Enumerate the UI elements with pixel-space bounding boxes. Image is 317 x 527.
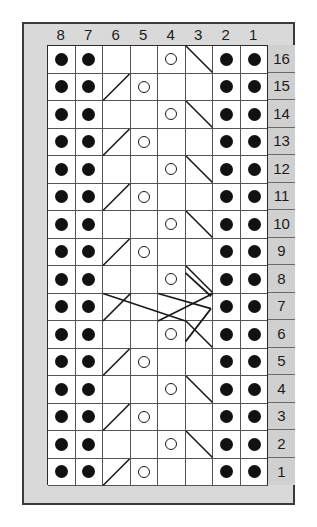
purl-dot-icon: [220, 108, 233, 121]
chart-row-8: [48, 266, 268, 294]
purl-dot-icon: [248, 328, 261, 341]
purl-dot-icon: [248, 273, 261, 286]
purl-dot-icon: [82, 438, 95, 451]
cell-r4-c3: [186, 376, 214, 404]
purl-dot-icon: [55, 465, 68, 478]
decrease-right-diagonal-icon: [103, 74, 130, 101]
cell-r2-c1: [241, 431, 269, 459]
purl-dot-icon: [248, 218, 261, 231]
cell-r9-c8: [48, 239, 76, 267]
cell-r8-c3: [186, 266, 214, 294]
yarn-over-circle-icon: [138, 136, 150, 148]
purl-dot-icon: [220, 80, 233, 93]
chart-row-15: [48, 74, 268, 102]
column-header-5: 5: [130, 24, 158, 44]
column-header-1: 1: [240, 24, 268, 44]
cell-r6-c2: [213, 321, 241, 349]
cell-r14-c8: [48, 101, 76, 129]
purl-dot-icon: [248, 80, 261, 93]
cell-r12-c5: [131, 156, 159, 184]
cell-r6-c6: [103, 321, 131, 349]
purl-dot-icon: [82, 300, 95, 313]
cell-r6-c5: [131, 321, 159, 349]
cell-r12-c6: [103, 156, 131, 184]
cell-r4-c1: [241, 376, 269, 404]
cell-r15-c3: [186, 74, 214, 102]
cell-r5-c7: [76, 349, 104, 377]
cell-r8-c7: [76, 266, 104, 294]
cell-r7-c3: [186, 294, 214, 322]
yarn-over-circle-icon: [165, 218, 177, 230]
purl-dot-icon: [82, 245, 95, 258]
cell-r2-c2: [213, 431, 241, 459]
chart-row-16: [48, 46, 268, 74]
purl-dot-icon: [248, 438, 261, 451]
yarn-over-circle-icon: [165, 438, 177, 450]
cell-r16-c4: [158, 46, 186, 74]
cell-r7-c4: [158, 294, 186, 322]
column-header-7: 7: [75, 24, 103, 44]
purl-dot-icon: [55, 218, 68, 231]
cell-r4-c7: [76, 376, 104, 404]
decrease-right-diagonal-icon: [103, 349, 130, 376]
cell-r16-c1: [241, 46, 269, 74]
purl-dot-icon: [82, 53, 95, 66]
purl-dot-icon: [82, 383, 95, 396]
cell-r13-c4: [158, 129, 186, 157]
cell-r16-c8: [48, 46, 76, 74]
cell-r3-c2: [213, 404, 241, 432]
row-number-8: 8: [268, 265, 295, 293]
purl-dot-icon: [55, 245, 68, 258]
row-number-15: 15: [268, 73, 295, 101]
cell-r2-c5: [131, 431, 159, 459]
cell-r9-c7: [76, 239, 104, 267]
cell-r11-c7: [76, 184, 104, 212]
column-header-6: 6: [102, 24, 130, 44]
cell-r2-c8: [48, 431, 76, 459]
purl-dot-icon: [55, 383, 68, 396]
cell-r12-c3: [186, 156, 214, 184]
decrease-left-diagonal-icon: [186, 431, 213, 458]
purl-dot-icon: [248, 300, 261, 313]
chart-row-7: [48, 294, 268, 322]
cell-r9-c4: [158, 239, 186, 267]
purl-dot-icon: [220, 465, 233, 478]
cell-r6-c7: [76, 321, 104, 349]
decrease-right-diagonal-icon: [103, 129, 130, 156]
purl-dot-icon: [55, 328, 68, 341]
purl-dot-icon: [220, 328, 233, 341]
cell-r13-c3: [186, 129, 214, 157]
decrease-right-diagonal-icon: [103, 239, 130, 266]
row-number-7: 7: [268, 293, 295, 321]
purl-dot-icon: [82, 328, 95, 341]
cell-r4-c4: [158, 376, 186, 404]
cell-r15-c4: [158, 74, 186, 102]
cell-r16-c7: [76, 46, 104, 74]
row-number-2: 2: [268, 430, 295, 458]
column-header-2: 2: [212, 24, 240, 44]
purl-dot-icon: [55, 438, 68, 451]
purl-dot-icon: [220, 218, 233, 231]
decrease-left-diagonal-icon: [186, 321, 213, 348]
purl-dot-icon: [82, 355, 95, 368]
purl-dot-icon: [248, 383, 261, 396]
cell-r10-c4: [158, 211, 186, 239]
cell-r8-c2: [213, 266, 241, 294]
cell-r2-c3: [186, 431, 214, 459]
purl-dot-icon: [248, 53, 261, 66]
stitch-grid: [47, 45, 267, 485]
decrease-left-diagonal-icon: [186, 46, 213, 73]
cell-r8-c8: [48, 266, 76, 294]
purl-dot-icon: [82, 80, 95, 93]
row-number-5: 5: [268, 348, 295, 376]
yarn-over-circle-icon: [138, 411, 150, 423]
decrease-right-diagonal-icon: [103, 404, 130, 431]
cell-r10-c1: [241, 211, 269, 239]
chart-row-10: [48, 211, 268, 239]
cell-r10-c6: [103, 211, 131, 239]
row-number-10: 10: [268, 210, 295, 238]
column-header-3: 3: [185, 24, 213, 44]
purl-dot-icon: [220, 410, 233, 423]
yarn-over-circle-icon: [165, 108, 177, 120]
purl-dot-icon: [82, 273, 95, 286]
